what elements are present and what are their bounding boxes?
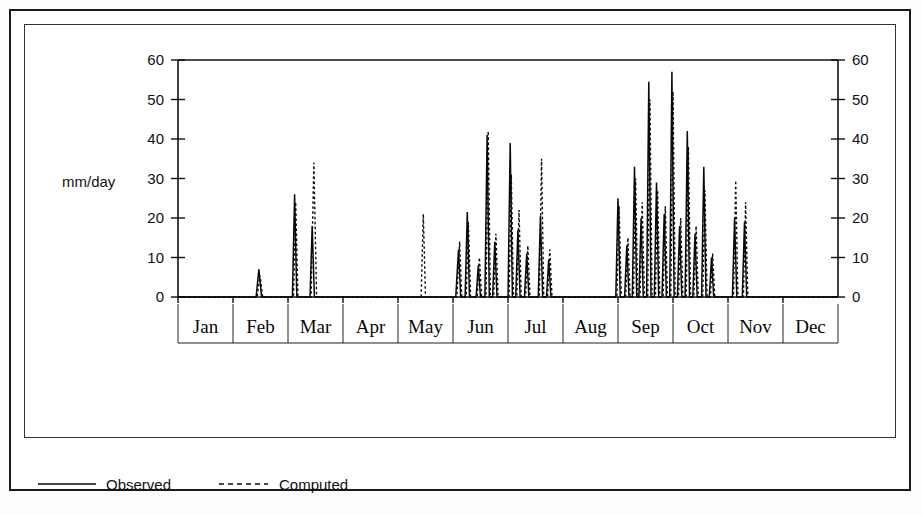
chart-page: mm/day 0102030405060 0102030405060 JanFe… — [0, 0, 922, 515]
chart-panel-border — [24, 24, 896, 438]
